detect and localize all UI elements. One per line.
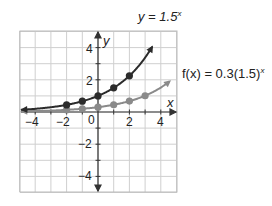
tick-x-neg2: −2 — [56, 116, 70, 128]
y-axis-arrow-up-icon — [95, 32, 101, 38]
tick-y-neg4: −4 — [78, 170, 92, 182]
data-point — [126, 72, 133, 79]
data-point — [126, 97, 133, 104]
tick-x-4: 4 — [157, 116, 164, 128]
data-point — [110, 101, 117, 108]
x-axis-label: x — [167, 96, 174, 109]
tick-x-0: 0 — [88, 114, 95, 126]
data-point — [110, 84, 117, 91]
data-point — [63, 101, 70, 108]
tick-y-2: 2 — [86, 75, 93, 87]
data-point — [94, 104, 101, 111]
curve1-label: y = 1.5x — [138, 10, 181, 23]
tick-y-4: 4 — [86, 43, 93, 55]
tick-x-neg4: −4 — [25, 116, 39, 128]
data-point — [142, 92, 149, 99]
tick-x-2: 2 — [126, 116, 133, 128]
graph-canvas — [0, 0, 272, 206]
y-axis-arrow-down-icon — [95, 185, 101, 191]
curve2-label: f(x) = 0.3(1.5)x — [182, 67, 264, 80]
data-point — [79, 98, 86, 105]
tick-y-neg2: −2 — [78, 138, 92, 150]
data-point — [94, 92, 101, 99]
y-axis-label: y — [103, 34, 110, 47]
data-point — [79, 105, 86, 112]
